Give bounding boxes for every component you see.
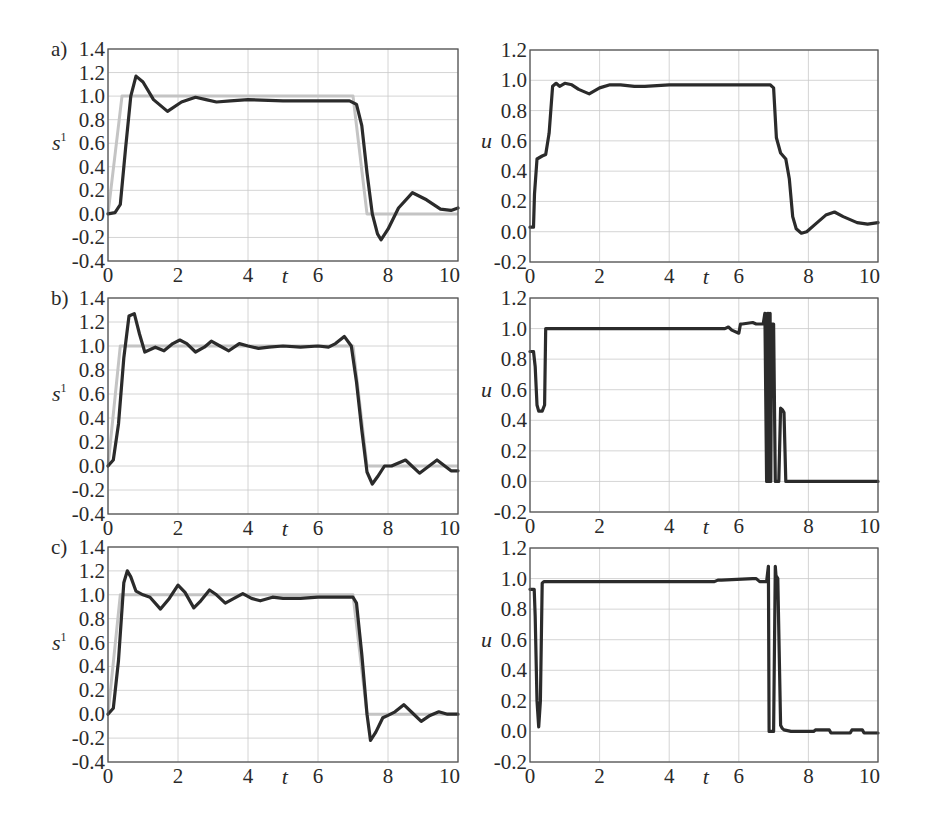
y-axis-label: u xyxy=(481,377,492,402)
x-tick-label: 8 xyxy=(803,514,814,538)
reference-line xyxy=(108,96,458,214)
y-tick-label: 0.8 xyxy=(79,358,105,382)
y-tick-label: 1.2 xyxy=(501,38,527,62)
y-tick-label: 1.2 xyxy=(79,559,105,583)
axes-frame xyxy=(108,49,458,261)
control-line xyxy=(530,83,878,233)
y-tick-label: 1.0 xyxy=(501,317,527,341)
y-tick-label: -0.2 xyxy=(494,250,527,274)
x-tick-label: 6 xyxy=(313,263,324,287)
y-tick-label: 0.6 xyxy=(501,378,527,402)
panel-label: c) xyxy=(51,535,67,559)
y-tick-label: 1.0 xyxy=(501,68,527,92)
figure: -0.4-0.20.00.20.40.60.81.01.21.40246810t… xyxy=(0,0,931,820)
y-tick-label: -0.2 xyxy=(72,478,105,502)
y-tick-label: 1.4 xyxy=(79,535,106,559)
panel-c-left: -0.4-0.20.00.20.40.60.81.01.21.40246810t… xyxy=(51,535,460,789)
y-tick-label: 1.2 xyxy=(501,286,527,310)
axes-frame xyxy=(108,298,458,514)
x-tick-label: 2 xyxy=(173,764,184,788)
y-axis-label: s1 xyxy=(52,130,67,155)
grid xyxy=(530,50,878,262)
y-tick-label: 0.2 xyxy=(79,430,105,454)
x-tick-label: 10 xyxy=(439,263,460,287)
y-axis-label: s1 xyxy=(52,630,67,655)
y-tick-label: 1.2 xyxy=(79,61,105,85)
grid xyxy=(108,547,458,762)
y-tick-label: -0.2 xyxy=(72,225,105,249)
x-tick-label: 0 xyxy=(525,264,536,288)
y-tick-label: -0.4 xyxy=(72,249,106,273)
axes-frame xyxy=(530,50,878,262)
x-tick-label: 8 xyxy=(803,264,814,288)
y-tick-label: 0.4 xyxy=(501,658,528,682)
x-tick-label: 4 xyxy=(664,764,675,788)
y-tick-label: 0.8 xyxy=(501,347,527,371)
x-tick-label: 0 xyxy=(525,514,536,538)
x-axis-label: t xyxy=(703,264,710,289)
y-axis-label: s1 xyxy=(52,381,67,406)
x-tick-label: 2 xyxy=(173,516,184,540)
y-tick-label: 0.2 xyxy=(79,678,105,702)
x-tick-label: 8 xyxy=(803,764,814,788)
x-tick-label: 4 xyxy=(243,516,254,540)
y-tick-label: 0.8 xyxy=(79,607,105,631)
reference-line xyxy=(108,346,458,466)
x-tick-label: 8 xyxy=(383,516,394,540)
x-axis-label: t xyxy=(703,764,710,789)
y-tick-label: 0.2 xyxy=(501,439,527,463)
y-tick-label: 0.4 xyxy=(501,159,528,183)
x-tick-label: 10 xyxy=(859,264,880,288)
x-tick-label: 10 xyxy=(439,764,460,788)
y-tick-label: 0.4 xyxy=(79,406,106,430)
y-tick-label: 0.0 xyxy=(79,702,105,726)
x-tick-label: 10 xyxy=(439,516,460,540)
x-axis-label: t xyxy=(282,516,289,541)
reference-line xyxy=(108,595,458,714)
x-axis-label: t xyxy=(282,764,289,789)
x-tick-label: 6 xyxy=(313,516,324,540)
y-tick-label: 1.0 xyxy=(501,567,527,591)
x-tick-label: 4 xyxy=(664,264,675,288)
control-line xyxy=(530,313,878,481)
y-tick-label: 0.0 xyxy=(501,469,527,493)
y-tick-label: 0.4 xyxy=(79,654,106,678)
x-tick-label: 4 xyxy=(664,514,675,538)
y-axis-label: u xyxy=(481,627,492,652)
y-tick-label: 0.4 xyxy=(79,155,106,179)
y-tick-label: 0.0 xyxy=(79,454,105,478)
x-tick-label: 2 xyxy=(594,264,605,288)
x-tick-label: 0 xyxy=(103,764,114,788)
y-tick-label: -0.2 xyxy=(72,726,105,750)
x-tick-label: 2 xyxy=(173,263,184,287)
y-tick-label: 1.4 xyxy=(79,37,106,61)
y-tick-label: 1.0 xyxy=(79,334,105,358)
x-tick-label: 6 xyxy=(313,764,324,788)
y-tick-label: 0.8 xyxy=(79,108,105,132)
y-tick-label: 0.0 xyxy=(79,202,105,226)
y-tick-label: 1.2 xyxy=(79,310,105,334)
y-tick-label: 0.2 xyxy=(501,189,527,213)
y-tick-label: 1.0 xyxy=(79,583,105,607)
panel-a-left: -0.4-0.20.00.20.40.60.81.01.21.40246810t… xyxy=(51,37,460,288)
y-tick-label: 0.8 xyxy=(501,99,527,123)
x-tick-label: 8 xyxy=(383,263,394,287)
y-tick-label: -0.4 xyxy=(72,502,106,526)
panel-a-right: -0.20.00.20.40.60.81.01.20246810tu xyxy=(481,38,880,289)
x-tick-label: 8 xyxy=(383,764,394,788)
y-tick-label: 0.4 xyxy=(501,408,528,432)
panel-c-right: -0.20.00.20.40.60.81.01.20246810tu xyxy=(481,536,880,789)
x-tick-label: 6 xyxy=(734,764,745,788)
y-tick-label: -0.2 xyxy=(494,750,527,774)
x-tick-label: 2 xyxy=(594,514,605,538)
x-tick-label: 4 xyxy=(243,263,254,287)
control-line xyxy=(530,566,878,733)
y-tick-label: 0.6 xyxy=(79,382,105,406)
grid xyxy=(108,49,458,261)
response-line xyxy=(108,314,458,484)
axes-frame xyxy=(108,547,458,762)
y-tick-label: 0.2 xyxy=(501,689,527,713)
grid xyxy=(108,298,458,514)
x-tick-label: 6 xyxy=(734,514,745,538)
y-tick-label: 0.6 xyxy=(501,628,527,652)
